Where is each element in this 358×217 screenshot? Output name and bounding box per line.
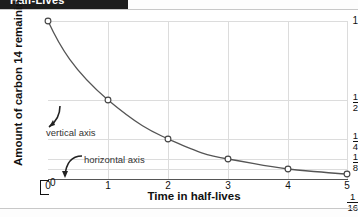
x-tick-1: 1	[100, 180, 116, 191]
y-tick-1-value: 1	[352, 15, 358, 26]
figure: Amount of carbon 14 remaining Time in ha…	[0, 9, 358, 209]
x-axis-title: Time in half-lives	[40, 190, 348, 202]
y-axis-title: Amount of carbon 14 remaining	[12, 6, 24, 166]
x-tick-5: 5	[339, 180, 355, 191]
y-tick-eighth: 1 8	[314, 152, 358, 173]
horizontal-axis-pointer-icon	[58, 153, 86, 183]
chart-root: Half-Lives Amount of carbon 14 remaining…	[0, 0, 358, 217]
plot-area: vertical axis horizontal axis	[48, 21, 348, 179]
data-point-2	[165, 136, 171, 142]
data-point-3	[225, 156, 231, 162]
data-point-1	[105, 97, 111, 103]
x-tick-3: 3	[220, 180, 236, 191]
annotation-horizontal-axis: horizontal axis	[84, 154, 145, 165]
y-tick-half: 1 2	[314, 92, 358, 113]
y-tick-eighth-den: 8	[353, 162, 358, 173]
y-tick-sixteenth-num: 1	[347, 192, 358, 202]
x-tick-0: 0	[40, 180, 56, 191]
y-tick-half-num: 1	[353, 92, 358, 102]
y-tick-sixteenth-den: 16	[347, 202, 358, 213]
horizontal-axis-line	[48, 179, 348, 180]
y-tick-sixteenth: 1 16	[314, 192, 358, 213]
x-tick-4: 4	[280, 180, 296, 191]
y-tick-1: 1	[314, 16, 358, 26]
data-point-0	[45, 18, 51, 24]
y-tick-eighth-num: 1	[353, 152, 358, 162]
x-tick-2: 2	[160, 180, 176, 191]
data-point-4	[285, 166, 291, 172]
y-tick-half-den: 2	[353, 102, 358, 113]
annotation-vertical-axis: vertical axis	[46, 127, 96, 138]
y-tick-quarter-num: 1	[353, 131, 358, 141]
y-tick-quarter: 1 4	[314, 131, 358, 152]
